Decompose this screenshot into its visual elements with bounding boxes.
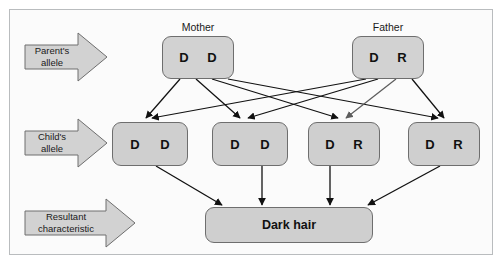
child-2-allele-2: D — [250, 138, 280, 151]
child-1-allele-box[interactable]: D D — [112, 122, 188, 166]
mother-allele-2: D — [198, 51, 226, 64]
child-2-allele-pair: D D — [213, 138, 287, 151]
child-4-allele-pair: D R — [409, 138, 479, 151]
child-4-allele-2: R — [444, 138, 472, 151]
child-1-allele-pair: D D — [113, 138, 187, 151]
mother-allele-pair: D D — [163, 51, 233, 64]
father-to-children — [152, 79, 444, 118]
child-3-allele-pair: D R — [309, 138, 379, 151]
parents-row-label-text: Parent's allele — [24, 31, 80, 83]
child-3-allele-2: R — [344, 138, 372, 151]
father-allele-1: D — [360, 51, 388, 64]
children-row-label-line2: allele — [41, 143, 63, 155]
child-4-allele-box[interactable]: D R — [408, 122, 480, 166]
parents-row-label-arrow: Parent's allele — [24, 31, 108, 83]
children-to-result — [156, 166, 440, 205]
father-caption: Father — [352, 22, 424, 33]
father-allele-2: R — [388, 51, 416, 64]
mother-caption: Mother — [162, 22, 234, 33]
father-allele-box[interactable]: D R — [352, 36, 424, 79]
child-4-allele-1: D — [416, 138, 444, 151]
child-1-allele-1: D — [120, 138, 150, 151]
child-2-allele-box[interactable]: D D — [212, 122, 288, 166]
result-row-label-arrow: Resultant characteristic — [24, 197, 136, 249]
mother-allele-box[interactable]: D D — [162, 36, 234, 79]
mother-allele-1: D — [170, 51, 198, 64]
children-row-label-line1: Child's — [38, 131, 66, 143]
child-3-allele-box[interactable]: D R — [308, 122, 380, 166]
parents-row-label-line1: Parent's — [35, 45, 70, 57]
child-2-allele-1: D — [220, 138, 250, 151]
result-row-label-line1: Resultant — [46, 211, 86, 223]
diagram-canvas: Parent's allele Child's allele Resultant… — [0, 0, 503, 275]
children-row-label-arrow: Child's allele — [24, 117, 108, 169]
result-box[interactable]: Dark hair — [205, 207, 373, 243]
parents-row-label-line2: allele — [41, 57, 63, 69]
child-1-allele-2: D — [150, 138, 180, 151]
father-to-child-3 — [346, 79, 396, 118]
result-label: Dark hair — [262, 218, 316, 232]
result-row-label-line2: characteristic — [38, 223, 94, 235]
mother-to-children — [146, 79, 438, 118]
result-row-label-text: Resultant characteristic — [24, 197, 108, 249]
father-allele-pair: D R — [353, 51, 423, 64]
child-3-allele-1: D — [316, 138, 344, 151]
children-row-label-text: Child's allele — [24, 117, 80, 169]
